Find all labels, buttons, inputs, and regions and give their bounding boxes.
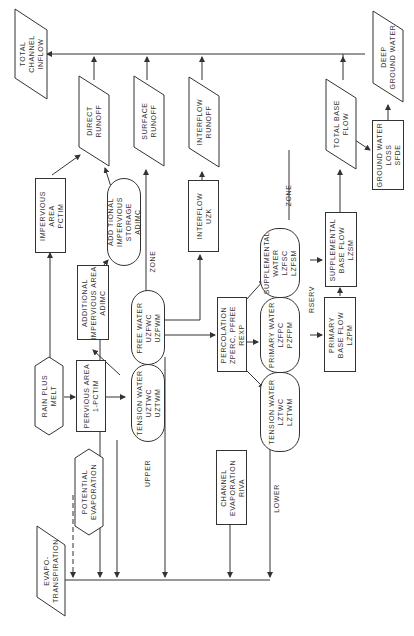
- direct-runoff-node: DIRECT RUNOFF: [78, 75, 110, 167]
- free-water-upper-label: FREE WATER UZFWC UZFWM: [135, 302, 162, 353]
- impervious-area-label: IMPERVIOUS AREA PCTIM: [37, 191, 64, 241]
- evapotranspiration-node: EVAPO- TRANSPIRATION: [36, 525, 66, 617]
- supplemental-base-flow-label: SUPPLEMENTAL BASE FLOW LZSM: [328, 218, 355, 281]
- deep-ground-water-label: DEEP GROUND WATER: [379, 24, 397, 89]
- zone-lower-bottom-label: LOWER: [273, 484, 280, 513]
- primary-base-flow-label: PRIMARY BASE FLOW LZPM: [327, 311, 354, 357]
- evapotranspiration-label: EVAPO- TRANSPIRATION: [42, 539, 60, 603]
- direct-runoff-label: DIRECT RUNOFF: [85, 105, 103, 138]
- potential-evaporation-node: POTENTIAL EVAPORATION: [74, 448, 104, 536]
- surface-runoff-node: SURFACE RUNOFF: [133, 75, 165, 167]
- deep-ground-water-node: DEEP GROUND WATER: [372, 10, 404, 103]
- pervious-area-node: PERVIOUS AREA 1-PCTIM: [76, 360, 106, 432]
- zone-upper-top-label: ZONE: [149, 251, 156, 273]
- interflow-node: INTERFLOW UZK: [188, 180, 219, 252]
- rain-plus-melt-label: RAIN PLUS MELT: [40, 375, 58, 417]
- tension-water-upper-label: TENSION WATER UZTWC UZTWM: [135, 370, 162, 435]
- percolation-label: PERCOLATION ZPERC, PFREE REXP: [219, 305, 246, 363]
- total-channel-inflow-label: TOTAL CHANNEL INFLOW: [18, 35, 45, 73]
- free-water-upper-node: FREE WATER UZFWC UZFWM: [131, 290, 165, 365]
- rserv-label: RSERV: [308, 286, 315, 313]
- tension-water-upper-node: TENSION WATER UZTWC UZTWM: [131, 364, 165, 442]
- zone-upper-bottom-label: UPPER: [144, 460, 151, 487]
- channel-evaporation-node: CHANNEL EVAPORATION RIVA: [216, 450, 247, 525]
- additional-impervious-area-node: ADDITIONAL IMPERVIOUS AREA ADIMC: [77, 265, 109, 340]
- primary-base-flow-node: PRIMARY BASE FLOW LZPM: [324, 297, 356, 372]
- supplemental-water-node: SUPPLEMENTAL WATER LZFSC LZFSM: [260, 228, 300, 298]
- surface-runoff-label: SURFACE RUNOFF: [140, 102, 158, 139]
- primary-water-node: PRIMARY WATER LZFPC PZFPM: [260, 297, 300, 373]
- impervious-area-node: IMPERVIOUS AREA PCTIM: [35, 178, 66, 253]
- channel-evaporation-label: CHANNEL EVAPORATION RIVA: [218, 459, 245, 515]
- tension-water-lower-node: TENSION WATER LZTWC LZTWM: [260, 372, 300, 452]
- percolation-node: PERCOLATION ZPERC, PFREE REXP: [217, 297, 247, 372]
- interflow-runoff-node: INTERFLOW RUNOFF: [188, 76, 220, 168]
- tension-water-lower-label: TENSION WATER LZTWC LZTWM: [267, 379, 294, 444]
- additional-impervious-storage-label: ADD TIONAL IMPERVIOUS STORAGE ADIMC: [106, 197, 142, 247]
- interflow-runoff-label: INTERFLOW RUNOFF: [195, 99, 213, 146]
- additional-impervious-storage-node: ADD TIONAL IMPERVIOUS STORAGE ADIMC: [107, 178, 141, 266]
- additional-impervious-area-label: ADDITIONAL IMPERVIOUS AREA ADIMC: [80, 266, 107, 339]
- total-base-flow-label: TOTAL BASE FLOW: [332, 100, 350, 148]
- supplemental-base-flow-node: SUPPLEMENTAL BASE FLOW LZSM: [325, 212, 357, 287]
- supplemental-water-label: SUPPLEMENTAL WATER LZFSC LZFSM: [262, 232, 298, 295]
- ground-water-loss-label: GROUND WATER LOSS SFDE: [375, 123, 402, 188]
- interflow-label: INTERFLOW UZK: [195, 193, 213, 240]
- pervious-area-label: PERVIOUS AREA 1-PCTIM: [82, 364, 100, 428]
- rain-plus-melt-node: RAIN PLUS MELT: [34, 356, 64, 436]
- ground-water-loss-node: GROUND WATER LOSS SFDE: [372, 120, 404, 190]
- zone-lower-top-label: ZONE: [285, 185, 292, 207]
- total-channel-inflow-node: TOTAL CHANNEL INFLOW: [14, 8, 48, 100]
- primary-water-label: PRIMARY WATER LZFPC PZFPM: [267, 302, 294, 368]
- total-base-flow-node: TOTAL BASE FLOW: [325, 78, 357, 170]
- potential-evaporation-label: POTENTIAL EVAPORATION: [80, 464, 98, 520]
